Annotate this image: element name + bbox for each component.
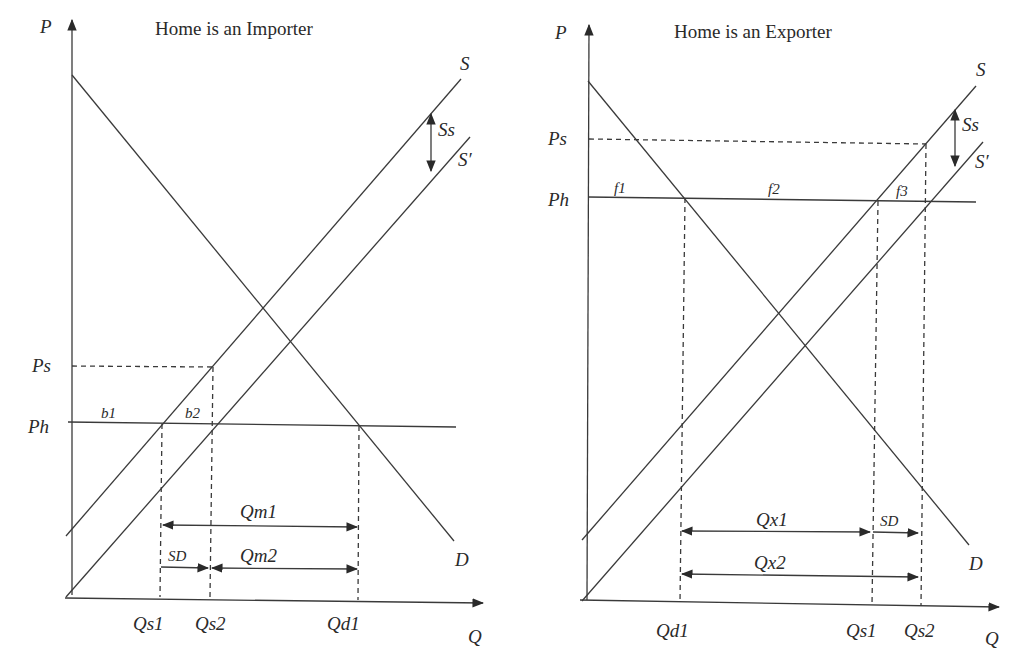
qs2-label: Qs2 [195, 613, 226, 634]
qx2-arrow [682, 574, 918, 577]
qx2-label: Qx2 [754, 552, 786, 573]
qs2-label: Qs2 [904, 620, 935, 641]
ps-label: Ps [547, 128, 567, 149]
point-f1: f1 [614, 180, 626, 196]
supply-curve-s [66, 79, 461, 536]
ph-line [68, 422, 456, 427]
qd1-label: Qd1 [327, 613, 360, 634]
supply-s-prime-label: S′ [975, 151, 990, 172]
importer-panel: Home is an Importer P Q D S S′ Ss Ps Ph … [27, 16, 483, 647]
qm1-arrow [163, 525, 357, 527]
sd-arrow [161, 567, 208, 568]
supply-s-label: S [460, 53, 470, 74]
qs1-label: Qs1 [133, 613, 164, 634]
subsidy-label: Ss [962, 114, 979, 135]
supply-s-label: S [976, 59, 986, 80]
qm2-label: Qm2 [240, 545, 277, 566]
point-b1: b1 [101, 405, 116, 421]
point-f2: f2 [768, 181, 780, 197]
sd-arrow [873, 532, 918, 533]
exporter-title: Home is an Exporter [674, 21, 832, 42]
qd1-label: Qd1 [656, 620, 689, 641]
point-b2: b2 [185, 405, 201, 421]
qs1-drop-line [872, 201, 878, 605]
demand-label: D [454, 549, 469, 570]
ps-line [72, 366, 213, 367]
diagram-canvas: Home is an Importer P Q D S S′ Ss Ps Ph … [0, 0, 1027, 669]
qd1-drop-line [358, 426, 359, 600]
ph-line [588, 197, 976, 202]
qs2-drop-line [210, 367, 213, 597]
ph-label: Ph [27, 416, 49, 437]
q-axis [65, 598, 483, 603]
qm2-arrow [212, 568, 357, 569]
qx1-arrow [682, 531, 870, 532]
qm1-label: Qm1 [240, 501, 277, 522]
qd1-drop-line [680, 198, 685, 602]
importer-title: Home is an Importer [155, 18, 313, 39]
p-axis-label: P [554, 22, 567, 43]
subsidy-label: Ss [438, 119, 455, 140]
sd-label: SD [880, 513, 899, 529]
qx1-label: Qx1 [756, 509, 788, 530]
sd-label: SD [168, 548, 187, 564]
demand-label: D [968, 553, 983, 574]
ph-label: Ph [547, 189, 569, 210]
qs1-label: Qs1 [846, 620, 877, 641]
p-axis-label: P [39, 16, 52, 37]
q-axis-label: Q [468, 626, 482, 647]
supply-s-prime-label: S′ [458, 149, 473, 170]
q-axis [580, 600, 999, 607]
supply-curve-s [582, 86, 976, 540]
ps-label: Ps [31, 355, 51, 376]
q-axis-label: Q [985, 628, 999, 649]
point-f3: f3 [896, 183, 908, 199]
qs1-drop-line [160, 424, 162, 597]
exporter-panel: Home is an Exporter P Q D S S′ Ss Ps Ph … [547, 21, 999, 649]
p-axis [587, 25, 589, 600]
qs2-drop-line [921, 144, 926, 606]
